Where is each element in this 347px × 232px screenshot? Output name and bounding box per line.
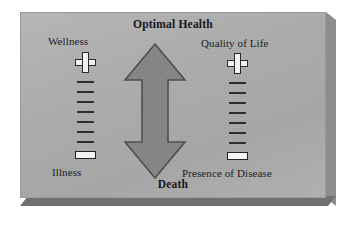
label-wellness: Wellness bbox=[48, 35, 88, 47]
scale-tick bbox=[77, 111, 94, 113]
scale-tick bbox=[77, 91, 94, 93]
scale-tick bbox=[229, 82, 246, 84]
diagram-canvas: Optimal Health Death Wellness Illness Qu… bbox=[0, 0, 347, 232]
scale-tick bbox=[229, 122, 246, 124]
minus-icon bbox=[75, 151, 96, 159]
scale-tick bbox=[229, 102, 246, 104]
scale-tick bbox=[77, 131, 94, 133]
minus-icon bbox=[227, 152, 248, 160]
double-headed-arrow-icon bbox=[123, 42, 187, 180]
title-optimal-health: Optimal Health bbox=[20, 18, 326, 30]
label-illness: Illness bbox=[52, 166, 81, 178]
scale-tick bbox=[77, 101, 94, 103]
scale-ticks-right bbox=[229, 78, 246, 148]
scale-ticks-left bbox=[77, 77, 94, 147]
scale-tick bbox=[229, 112, 246, 114]
plus-icon bbox=[227, 53, 248, 74]
label-presence-of-disease: Presence of Disease bbox=[182, 167, 272, 179]
diagram-panel: Optimal Health Death Wellness Illness Qu… bbox=[20, 12, 326, 198]
plus-icon bbox=[75, 52, 96, 73]
scale-tick bbox=[229, 132, 246, 134]
scale-wellness-illness bbox=[65, 52, 105, 159]
scale-tick bbox=[229, 92, 246, 94]
scale-quality-disease bbox=[217, 53, 257, 160]
scale-tick bbox=[77, 121, 94, 123]
label-quality-of-life: Quality of Life bbox=[201, 37, 268, 49]
scale-tick bbox=[77, 141, 94, 143]
scale-tick bbox=[229, 142, 246, 144]
scale-tick bbox=[77, 81, 94, 83]
panel-right-bevel bbox=[326, 12, 336, 206]
